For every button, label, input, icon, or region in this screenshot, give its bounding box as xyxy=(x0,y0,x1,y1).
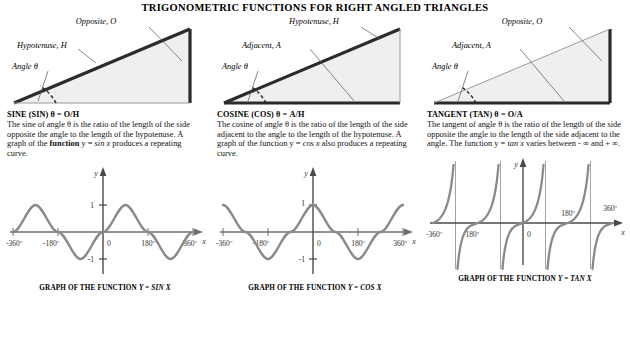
definition-text-italic: cos x xyxy=(303,139,320,148)
triangle-label-hypotenuse: Hypotenuse, H xyxy=(288,17,340,26)
columns-container: Opposite, O Hypotenuse, H Angle θ SINE (… xyxy=(0,13,630,292)
x-tick-label-180: 180º xyxy=(141,239,155,248)
tangent-branch-2 xyxy=(458,165,499,269)
definition-heading-tangent: TANGENT (TAN) θ = O/A xyxy=(427,110,623,119)
x-axis-arrow-icon xyxy=(614,219,623,226)
y-axis-name-cosine: y xyxy=(303,169,308,178)
graph-cosine: 1 -1 -360º -180º 0 180º 360º x y xyxy=(214,162,416,282)
definition-body-sine: The sine of angle θ is the ratio of the … xyxy=(7,120,203,158)
definition-heading-sine: SINE (SIN) θ = O/H xyxy=(7,110,203,119)
x-tick-label-360: 360º xyxy=(603,204,617,213)
definition-tangent: TANGENT (TAN) θ = O/A The tangent of ang… xyxy=(424,110,626,149)
definition-heading-cosine: COSINE (COS) θ = A/H xyxy=(217,110,413,119)
triangle-label-angle: Angle θ xyxy=(221,62,248,71)
graph-caption-sine: GRAPH OF THE FUNCTION Y = SIN X xyxy=(4,284,206,292)
triangle-diagram-cosine: Hypotenuse, H Adjacent, A Angle θ xyxy=(214,13,416,109)
x-tick-label-360: 360º xyxy=(393,239,407,248)
graph-sine: 1 -1 -360º -180º 0 180º 360º x y xyxy=(4,162,206,282)
y-tick-label-1: 1 xyxy=(301,199,305,208)
graph-tangent: -360º -180º 0 180º 360º x y xyxy=(424,153,626,273)
leader-line-hypotenuse xyxy=(78,49,96,63)
y-tick-label-1: 1 xyxy=(90,201,94,210)
y-tick-label-neg1: -1 xyxy=(88,255,95,264)
caption-formula-sine: Y = SIN X xyxy=(139,284,171,292)
page-title: TRIGONOMETRIC FUNCTIONS FOR RIGHT ANGLED… xyxy=(0,0,630,13)
caption-prefix-cosine: GRAPH OF THE FUNCTION xyxy=(248,284,348,292)
triangle-label-opposite: Opposite, O xyxy=(76,17,116,26)
triangle-label-opposite: Opposite, O xyxy=(502,17,542,26)
tangent-branch-1 xyxy=(433,165,454,223)
y-axis-name-sine: y xyxy=(93,169,98,178)
x-tick-label-minus360: -360º xyxy=(6,239,23,248)
y-axis-name-tangent: y xyxy=(513,160,518,169)
x-axis-name-sine: x xyxy=(201,237,206,246)
definition-body-cosine: The cosine of angle θ is the ratio of th… xyxy=(217,120,413,158)
x-tick-label-zero: 0 xyxy=(317,239,321,248)
x-tick-label-zero: 0 xyxy=(107,239,111,248)
definition-body-tangent: The tangent of angle θ is the ratio of t… xyxy=(427,120,623,149)
definition-text-italic: tan x xyxy=(507,139,524,148)
tangent-branch-5 xyxy=(593,223,614,269)
y-tick-label-neg1: -1 xyxy=(299,255,306,264)
y-axis-arrow-icon xyxy=(520,158,527,167)
definition-text-post: varies between - ∞ and + ∞. xyxy=(524,139,620,148)
graph-caption-cosine: GRAPH OF THE FUNCTION Y = COS X xyxy=(214,284,416,292)
column-tangent: Opposite, O Adjacent, A Angle θ TANGENT … xyxy=(420,13,630,292)
y-axis-arrow-icon xyxy=(100,167,107,176)
x-tick-label-180: 180º xyxy=(351,239,365,248)
x-tick-label-minus360: -360º xyxy=(216,239,233,248)
y-axis-arrow-icon xyxy=(310,167,317,176)
x-tick-label-minus360: -360º xyxy=(426,230,443,239)
column-sine: Opposite, O Hypotenuse, H Angle θ SINE (… xyxy=(0,13,210,292)
x-axis-arrow-icon xyxy=(404,229,413,236)
triangle-diagram-sine: Opposite, O Hypotenuse, H Angle θ xyxy=(4,13,206,109)
caption-prefix-sine: GRAPH OF THE FUNCTION xyxy=(39,284,139,292)
x-tick-label-minus180: -180º xyxy=(43,239,60,248)
graph-caption-tangent: GRAPH OF THE FUNCTION Y = TAN X xyxy=(424,275,626,283)
definition-text-italic: sin x xyxy=(95,139,111,148)
definition-text-bold: function xyxy=(50,139,80,148)
definition-cosine: COSINE (COS) θ = A/H The cosine of angle… xyxy=(214,110,416,158)
x-axis-arrow-icon xyxy=(194,229,203,236)
x-axis-name-cosine: x xyxy=(411,237,416,246)
x-tick-label-zero: 0 xyxy=(527,230,531,239)
triangle-diagram-tangent: Opposite, O Adjacent, A Angle θ xyxy=(424,13,626,109)
triangle-label-adjacent: Adjacent, A xyxy=(241,41,282,50)
column-cosine: Hypotenuse, H Adjacent, A Angle θ COSINE… xyxy=(210,13,420,292)
caption-prefix-tangent: GRAPH OF THE FUNCTION xyxy=(458,275,558,283)
triangle-label-adjacent: Adjacent, A xyxy=(451,41,492,50)
x-axis-name-tangent: x xyxy=(620,228,625,237)
definition-sine: SINE (SIN) θ = O/H The sine of angle θ i… xyxy=(4,110,206,158)
x-tick-label-180: 180º xyxy=(561,209,575,218)
definition-text-mid: y = xyxy=(79,139,94,148)
triangle-label-angle: Angle θ xyxy=(431,62,458,71)
leader-line-hypotenuse xyxy=(361,27,380,39)
triangle-label-angle: Angle θ xyxy=(11,62,38,71)
triangle-label-hypotenuse: Hypotenuse, H xyxy=(16,41,68,50)
caption-formula-cosine: Y = COS X xyxy=(348,284,382,292)
caption-formula-tangent: Y = TAN X xyxy=(558,275,592,283)
